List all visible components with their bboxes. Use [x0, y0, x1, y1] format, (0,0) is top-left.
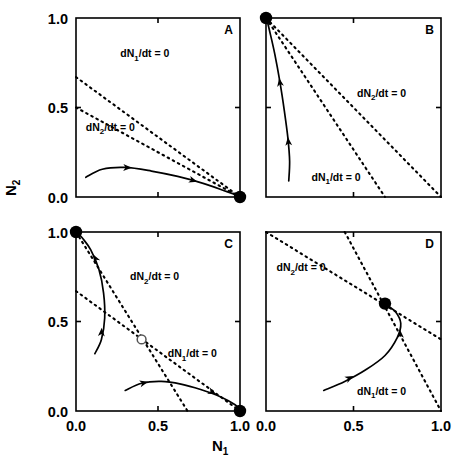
y-tick-label: 1.0	[48, 225, 68, 241]
panel-frame	[76, 232, 240, 411]
equilibrium-point-stable	[70, 226, 82, 238]
y-axis-label-text: N	[2, 185, 19, 196]
equilibrium-point-stable	[234, 191, 246, 203]
nullcline-label: dN1/dt = 0	[357, 385, 406, 400]
panel-letter: B	[425, 23, 434, 37]
panel-c: CdN2/dt = 0dN1/dt = 00.00.51.00.00.51.0	[48, 225, 250, 435]
nullcline-label: dN2/dt = 0	[86, 121, 135, 136]
nullcline-label: dN2/dt = 0	[130, 270, 179, 285]
trajectory	[78, 233, 105, 354]
equilibrium-point-stable	[379, 297, 391, 309]
panel-letter: D	[425, 237, 434, 251]
y-axis-label-subscript: 2	[11, 180, 22, 186]
nullcline-label: dN2/dt = 0	[277, 261, 326, 276]
trajectory	[86, 167, 240, 196]
x-tick-label: 0.0	[256, 418, 276, 434]
trajectory	[267, 20, 290, 181]
y-tick-label: 0.0	[48, 190, 68, 206]
nullcline-label: dN1/dt = 0	[312, 171, 361, 186]
nullcline-label: dN1/dt = 0	[168, 347, 217, 362]
x-tick-label: 1.0	[230, 418, 250, 434]
competition-phase-plane-figure: N2 N1 AdN1/dt = 0dN2/dt = 00.00.51.0BdN2…	[0, 0, 457, 469]
panel-b: BdN2/dt = 0dN1/dt = 0	[260, 12, 441, 197]
x-tick-label: 0.0	[66, 418, 86, 434]
equilibrium-point-saddle	[137, 335, 146, 344]
panel-a: AdN1/dt = 0dN2/dt = 00.00.51.0	[48, 11, 246, 206]
panel-frame	[266, 232, 441, 411]
x-tick-label: 0.5	[343, 418, 363, 434]
panel-letter: A	[224, 23, 233, 37]
x-tick-label: 0.5	[148, 418, 168, 434]
panel-d: DdN2/dt = 0dN1/dt = 00.00.51.0	[256, 232, 451, 434]
trajectory-arrow	[188, 176, 198, 185]
nullcline-label: dN2/dt = 0	[357, 87, 406, 102]
phase-plane-panels: AdN1/dt = 0dN2/dt = 00.00.51.0BdN2/dt = …	[0, 0, 457, 469]
equilibrium-point-stable	[234, 405, 246, 417]
equilibrium-point-stable	[260, 12, 272, 24]
x-axis-label-subscript: 1	[223, 446, 229, 457]
y-tick-label: 0.5	[48, 314, 68, 330]
y-axis-label: N2	[2, 180, 22, 196]
x-axis-label: N1	[212, 437, 228, 457]
panel-letter: C	[224, 237, 233, 251]
trajectory	[324, 305, 401, 390]
nullcline-dn2dt	[76, 232, 188, 411]
x-tick-label: 1.0	[431, 418, 451, 434]
nullcline-label: dN1/dt = 0	[120, 47, 169, 62]
nullcline-dn2dt	[76, 108, 240, 198]
nullcline-dn1dt	[76, 77, 240, 197]
x-axis-label-text: N	[212, 437, 223, 454]
y-tick-label: 0.0	[48, 404, 68, 420]
y-tick-label: 0.5	[48, 100, 68, 116]
y-tick-label: 1.0	[48, 11, 68, 27]
